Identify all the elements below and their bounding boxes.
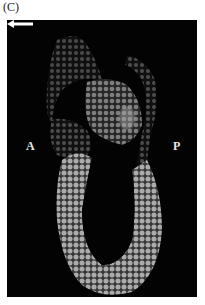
- tissue-section: [7, 20, 197, 297]
- microscopy-image: A P: [7, 20, 197, 297]
- anterior-label: A: [26, 139, 35, 154]
- panel-label: (C): [3, 0, 19, 14]
- arrow-left-icon: [7, 20, 33, 28]
- posterior-label: P: [173, 139, 180, 154]
